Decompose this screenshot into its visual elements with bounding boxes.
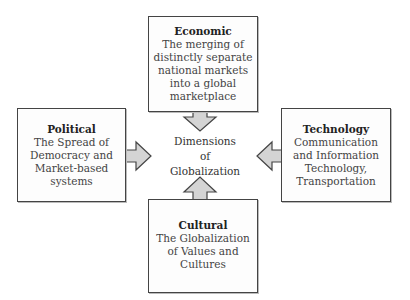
globalization-diagram: Economic The merging of distinctly separ… [0,0,410,300]
cultural-title: Cultural [179,219,228,232]
cultural-description: The Globalization of Values and Cultures [156,232,250,271]
economic-title: Economic [174,25,232,38]
arrow-down-icon [184,111,216,131]
economic-box: Economic The merging of distinctly separ… [148,16,258,112]
arrow-left-icon [257,142,283,170]
economic-description: The merging of distinctly separate natio… [154,38,253,103]
technology-title: Technology [303,123,369,136]
arrow-up-icon [184,177,216,200]
political-description: The Spread of Democracy and Market-based… [30,136,113,188]
cultural-box: Cultural The Globalization of Values and… [148,199,258,293]
political-box: Political The Spread of Democracy and Ma… [17,108,126,202]
technology-description: Communication and Information Technology… [293,136,379,188]
arrow-right-icon [125,142,151,170]
political-title: Political [47,123,96,136]
technology-box: Technology Communication and Information… [281,108,391,202]
center-label: Dimensions of Globalization [160,134,250,179]
